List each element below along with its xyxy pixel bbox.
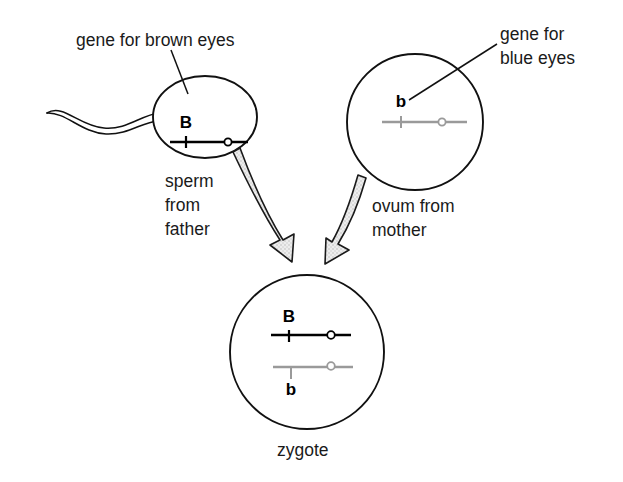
ovum-to-zygote-arrow: [325, 175, 366, 264]
zygote-paternal-allele-label: B: [283, 307, 295, 326]
sperm-tail-icon-secondary: [47, 113, 158, 134]
sperm-caption-line3: father: [165, 219, 210, 239]
ovum-caption-line2: mother: [372, 220, 427, 240]
blue-gene-label-line2: blue eyes: [500, 48, 575, 68]
zygote-cell-group: B b: [230, 275, 384, 429]
sperm-allele-label: B: [180, 113, 192, 132]
genetics-diagram: B gene for brown eyes sperm from father …: [0, 0, 623, 482]
sperm-cell-group: B: [47, 76, 257, 158]
ovum-caption: ovum from mother: [372, 196, 455, 240]
sperm-caption: sperm from father: [165, 171, 214, 239]
ovum-allele-label: b: [396, 92, 406, 111]
ovum-caption-line1: ovum from: [372, 196, 455, 216]
brown-gene-label: gene for brown eyes: [76, 30, 235, 50]
zygote-caption: zygote: [277, 440, 329, 460]
zygote-maternal-centromere: [327, 362, 335, 370]
ovum-cell-group: b: [347, 54, 483, 190]
ovum-centromere: [438, 118, 445, 125]
blue-gene-label-line1: gene for: [500, 24, 564, 44]
sperm-caption-line1: sperm: [165, 171, 214, 191]
sperm-head-outline: [153, 76, 257, 158]
zygote-paternal-centromere: [327, 331, 335, 339]
zygote-maternal-allele-label: b: [286, 380, 296, 399]
sperm-to-zygote-arrow: [233, 148, 294, 262]
sperm-centromere: [224, 138, 231, 145]
zygote-outline: [230, 275, 384, 429]
sperm-caption-line2: from: [165, 195, 200, 215]
diagram-canvas: B gene for brown eyes sperm from father …: [0, 0, 623, 482]
